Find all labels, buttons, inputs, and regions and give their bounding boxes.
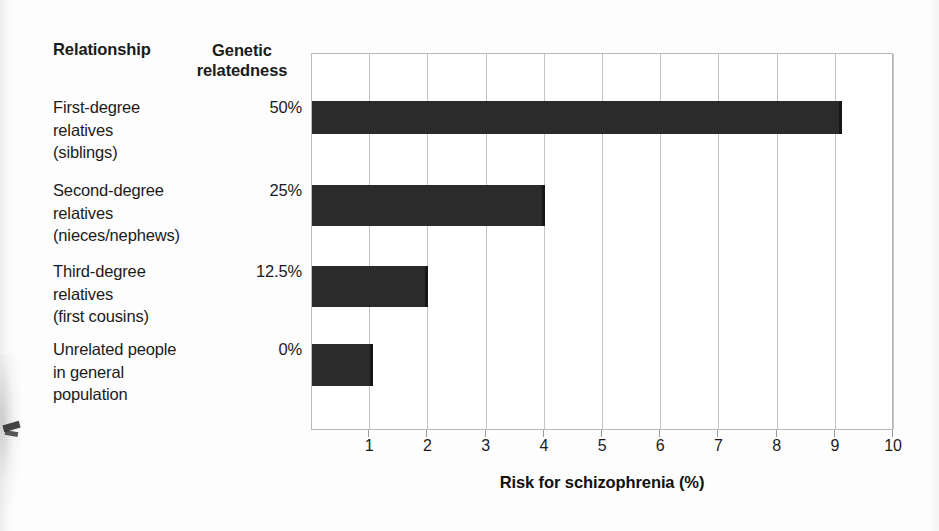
tick-mark-10	[892, 430, 893, 437]
relationship-label: Unrelated people in general population	[53, 338, 221, 406]
x-tick-label-9: 9	[815, 437, 855, 455]
bar-0	[312, 101, 842, 134]
relationship-label-line2: relatives	[53, 283, 221, 306]
tick-mark-1	[368, 430, 369, 437]
tick-mark-8	[776, 430, 777, 437]
x-tick-label-5: 5	[582, 437, 622, 455]
relationship-label-line1: Second-degree	[53, 179, 221, 202]
tick-mark-4	[543, 430, 544, 437]
column-header-relationship: Relationship	[53, 40, 151, 59]
relationship-label-line3: (first cousins)	[53, 305, 221, 328]
genetic-relatedness-value: 25%	[221, 179, 302, 202]
relationship-label: First-degree relatives (siblings)	[53, 96, 221, 164]
relationship-label-line3: (nieces/nephews)	[53, 224, 221, 247]
relationship-label-line1: First-degree	[53, 96, 221, 119]
relationship-label-line2: relatives	[53, 202, 221, 225]
genetic-relatedness-value: 0%	[221, 338, 302, 361]
relationship-label-line3: (siblings)	[53, 141, 221, 164]
genetic-relatedness-value: 50%	[221, 96, 302, 119]
relationship-label: Second-degree relatives (nieces/nephews)	[53, 179, 221, 247]
scan-edge-right	[929, 0, 939, 531]
relationship-label-line1: Third-degree	[53, 260, 221, 283]
x-axis-title: Risk for schizophrenia (%)	[311, 473, 893, 492]
bar-2	[312, 266, 428, 307]
x-tick-label-6: 6	[640, 437, 680, 455]
bar-1	[312, 185, 545, 226]
relationship-label-line2: in general	[53, 361, 221, 384]
genetic-relatedness-value: 12.5%	[221, 260, 302, 283]
tick-mark-2	[426, 430, 427, 437]
x-tick-label-3: 3	[466, 437, 506, 455]
x-tick-label-1: 1	[349, 437, 389, 455]
tick-mark-7	[717, 430, 718, 437]
tick-mark-6	[659, 430, 660, 437]
x-tick-label-8: 8	[757, 437, 797, 455]
relationship-label-line1: Unrelated people	[53, 338, 221, 361]
tick-mark-3	[485, 430, 486, 437]
tick-mark-5	[601, 430, 602, 437]
bar-3	[312, 344, 373, 386]
relationship-label-line3: population	[53, 383, 221, 406]
tick-mark-9	[834, 430, 835, 437]
plot-area	[311, 53, 893, 430]
gridline-x-10	[893, 54, 894, 429]
x-tick-label-7: 7	[698, 437, 738, 455]
relationship-label-line2: relatives	[53, 119, 221, 142]
relationship-label: Third-degree relatives (first cousins)	[53, 260, 221, 328]
column-header-genetic-line1: Genetic	[182, 40, 302, 60]
x-tick-label-4: 4	[524, 437, 564, 455]
schizophrenia-risk-figure: Relationship Genetic relatedness First-d…	[0, 0, 939, 531]
column-header-genetic-line2: relatedness	[182, 60, 302, 80]
x-tick-label-2: 2	[407, 437, 447, 455]
column-header-genetic-relatedness: Genetic relatedness	[182, 40, 302, 80]
x-tick-label-10: 10	[873, 437, 913, 455]
